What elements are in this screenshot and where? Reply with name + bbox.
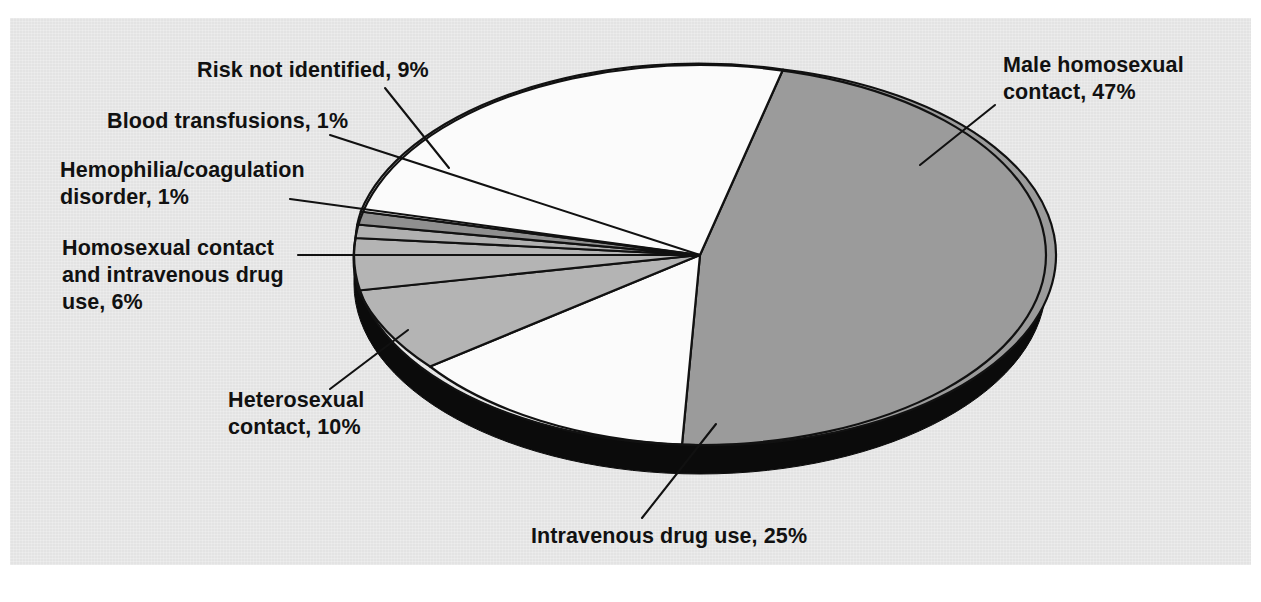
label-heterosexual-contact: Heterosexual contact, 10% [228,387,364,441]
label-homosexual-and-iv-drug-use: Homosexual contact and intravenous drug … [62,235,284,316]
label-hemophilia-coagulation-disorder: Hemophilia/coagulation disorder, 1% [60,157,305,211]
label-blood-transfusions: Blood transfusions, 1% [107,108,348,135]
label-intravenous-drug-use: Intravenous drug use, 25% [531,523,807,550]
label-male-homosexual-contact: Male homosexual contact, 47% [1003,52,1184,106]
label-risk-not-identified: Risk not identified, 9% [197,57,429,84]
figure-container: Male homosexual contact, 47% Risk not id… [0,0,1261,602]
figure-caption [10,586,1251,602]
